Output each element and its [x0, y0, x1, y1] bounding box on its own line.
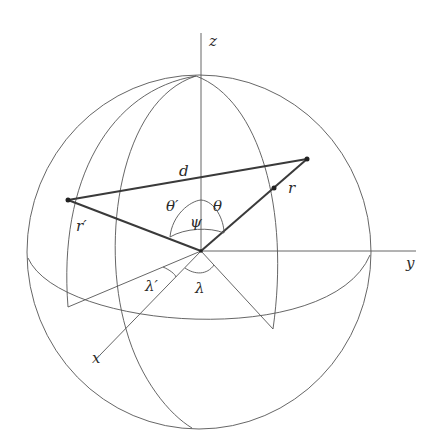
point-r-surface: [272, 186, 277, 191]
y-axis-label: y: [405, 254, 415, 272]
arc-lambda: [185, 265, 214, 273]
d-label: d: [179, 162, 189, 180]
point-r: [305, 157, 310, 162]
r-prime-label: r′: [76, 217, 87, 235]
x-axis-label: x: [92, 349, 101, 367]
z-axis-label: z: [208, 32, 217, 50]
r-label: r: [288, 179, 296, 197]
meridian-middle-left: [115, 76, 196, 428]
meridian-outer-left: [67, 76, 196, 307]
origin-point: [199, 249, 203, 253]
lambda-prime-label: λ′: [144, 277, 159, 295]
theta-label: θ: [213, 197, 222, 215]
lambda-label: λ: [194, 279, 205, 297]
r-prime-projection: [68, 251, 201, 307]
psi-label: ψ: [190, 213, 202, 231]
point-r-prime: [66, 198, 71, 203]
theta-prime-label: θ′: [166, 197, 179, 215]
x-axis: [100, 251, 201, 355]
r-projection: [201, 251, 273, 329]
arc-lambda-prime: [163, 267, 176, 277]
vector-r-prime: [68, 200, 201, 251]
sphere-diagram: z y x d r r′ θ′ θ ψ λ λ′: [0, 0, 441, 448]
